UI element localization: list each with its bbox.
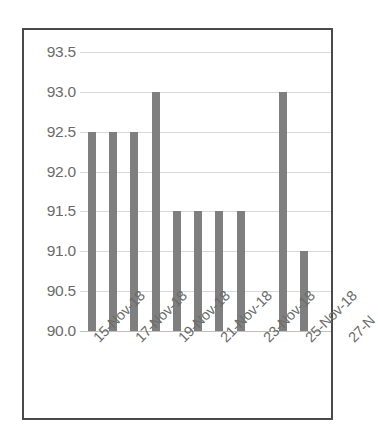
x-axis: 15-Nov-1817-Nov-1819-Nov-1821-Nov-1823-N… — [0, 334, 351, 420]
y-tick-label: 92.0 — [47, 163, 76, 181]
y-tick-label: 93.5 — [47, 43, 76, 61]
y-tick-label: 92.5 — [47, 123, 76, 141]
gridline-90.5 — [80, 291, 331, 292]
y-tick-label: 93.0 — [47, 83, 76, 101]
bar — [279, 92, 287, 331]
gridline-93.5 — [80, 52, 331, 53]
plot-area — [80, 52, 331, 331]
y-tick-label: 91.0 — [47, 242, 76, 260]
bar — [109, 132, 117, 331]
bar — [88, 132, 96, 331]
gridline-93.0 — [80, 92, 331, 93]
gridline-92.5 — [80, 132, 331, 133]
x-tick-label: 27-N — [345, 312, 378, 345]
y-tick-label: 91.5 — [47, 202, 76, 220]
y-tick-label: 90.5 — [47, 282, 76, 300]
y-axis: 93.593.092.592.091.591.090.590.0 — [26, 52, 80, 331]
gridline-91.5 — [80, 211, 331, 212]
bar — [152, 92, 160, 331]
gridline-90.0 — [80, 331, 331, 332]
gridline-92.0 — [80, 172, 331, 173]
gridline-91.0 — [80, 251, 331, 252]
